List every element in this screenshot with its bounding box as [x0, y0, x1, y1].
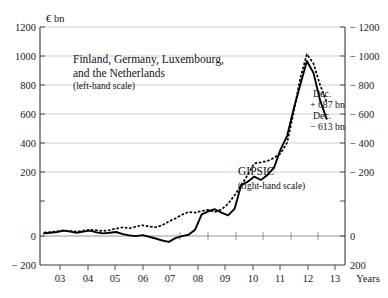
xlabel-08: 08: [193, 273, 204, 284]
xlabel-12: 12: [303, 273, 314, 284]
xlabel-13: 13: [330, 273, 341, 284]
xlabel-07: 07: [165, 273, 176, 284]
legend-north-block: Finland, Germany, Luxembourg, and the Ne…: [73, 53, 224, 92]
xlabel-03: 03: [55, 273, 66, 284]
ylabel-left-600: 600: [20, 109, 36, 120]
ylabel-left-1200: 1200: [15, 22, 36, 33]
xlabel-10: 10: [248, 273, 259, 284]
north-label-line1: Finland, Germany, Luxembourg,: [73, 53, 224, 66]
bottom-axis-ticks: [60, 265, 335, 270]
annot-gipsic-value: − 613 bn: [310, 121, 345, 132]
annotation-north-end: Dec. + 687 bn: [310, 88, 345, 110]
annot-gipsic-head: Dec.: [313, 110, 331, 121]
ylabel-right-neg1200: − 1200: [350, 22, 380, 33]
annot-north-head: Dec.: [313, 88, 331, 99]
ylabel-left-200: 200: [20, 167, 36, 178]
ylabel-left-neg200: − 200: [12, 260, 36, 271]
xlabel-06: 06: [138, 273, 149, 284]
ylabel-left-400: 400: [20, 138, 36, 149]
ylabel-left-800: 800: [20, 80, 36, 91]
annotation-gipsic-end: Dec. − 613 bn: [310, 110, 345, 132]
xlabel-09: 09: [220, 273, 231, 284]
x-tick-labels: 03 04 05 06 07 08 09 10 11 12 13 Years: [55, 273, 380, 284]
north-label-scale: (left-hand scale): [73, 81, 135, 92]
gipsic-label-scale: (right-hand scale): [238, 181, 305, 192]
ylabel-left-1000: 1000: [15, 51, 36, 62]
legend-gipsic: GIPSIC (right-hand scale): [238, 165, 305, 192]
ylabel-right-neg600: − 600: [350, 109, 374, 120]
xlabel-11: 11: [275, 273, 285, 284]
y-axis-unit-label: € bn: [46, 13, 65, 24]
north-label-line2: and the Netherlands: [73, 67, 165, 79]
annot-north-value: + 687 bn: [310, 99, 345, 110]
left-tick-labels: 1200 1000 800 600 400 200 0 − 200: [12, 22, 36, 271]
ylabel-right-200: 200: [350, 260, 366, 271]
gipsic-label-name: GIPSIC: [238, 165, 275, 177]
right-tick-labels: − 1200 − 1000 − 800 − 600 − 400 − 200 0 …: [350, 22, 380, 271]
ylabel-right-neg400: − 400: [350, 138, 374, 149]
ylabel-right-neg800: − 800: [350, 80, 374, 91]
ylabel-right-neg1000: − 1000: [350, 51, 380, 62]
ylabel-left-0: 0: [31, 231, 36, 242]
xlabel-04: 04: [83, 273, 94, 284]
x-axis-title: Years: [356, 273, 379, 284]
xlabel-05: 05: [110, 273, 121, 284]
chart-figure: € bn 1200 1000 800 600 400 200 0 − 200 −…: [0, 0, 388, 298]
ylabel-right-0: 0: [350, 231, 355, 242]
left-axis-ticks: [40, 27, 45, 236]
ylabel-right-neg200: − 200: [350, 167, 374, 178]
chart-canvas: € bn 1200 1000 800 600 400 200 0 − 200 −…: [0, 0, 388, 298]
